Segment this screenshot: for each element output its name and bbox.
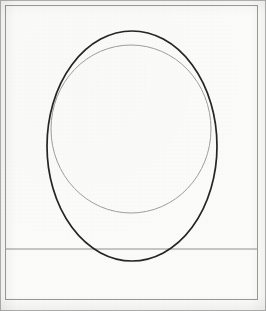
drawing-sheet (0, 0, 266, 311)
page-border-frame (6, 6, 258, 300)
drawing-canvas (0, 0, 266, 311)
